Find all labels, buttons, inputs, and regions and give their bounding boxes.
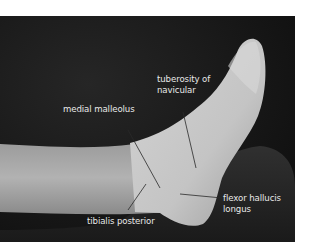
label-line: navicular: [157, 85, 210, 96]
label-tuberosity-of-navicular: tuberosity of navicular: [157, 74, 210, 96]
label-tibialis-posterior: tibialis posterior: [87, 216, 155, 227]
label-flexor-hallucis-longus: flexor hallucis longus: [223, 193, 281, 215]
label-medial-malleolus: medial malleolus: [63, 104, 135, 115]
label-line: tuberosity of: [157, 74, 210, 85]
label-line: longus: [223, 204, 281, 215]
anatomy-photo: tuberosity of navicular medial malleolus…: [0, 16, 295, 242]
label-line: flexor hallucis: [223, 193, 281, 204]
label-line: tibialis posterior: [87, 216, 155, 227]
label-line: medial malleolus: [63, 104, 135, 115]
